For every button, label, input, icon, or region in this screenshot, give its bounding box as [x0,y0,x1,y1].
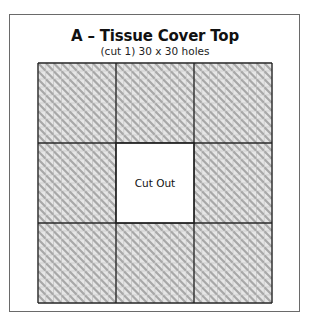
cutout-label: Cut Out [116,143,194,223]
pattern-title: A – Tissue Cover Top [0,27,310,45]
stitch-grid: Cut Out [38,63,272,303]
pattern-subtitle: (cut 1) 30 x 30 holes [0,45,310,57]
